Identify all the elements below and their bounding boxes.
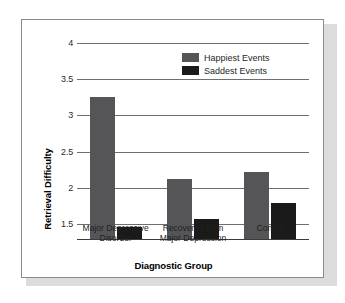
chart-legend: Happiest Events Saddest Events — [182, 51, 270, 77]
bar — [90, 97, 115, 239]
legend-swatch-saddest-icon — [182, 66, 199, 75]
x-axis-category-line: Major Depressive — [77, 223, 154, 233]
x-axis-category-label: Major DepressiveDisorder — [77, 223, 154, 243]
y-axis-tick-label: 2.5 — [61, 147, 73, 157]
x-axis-category-label: Control — [232, 223, 309, 233]
y-axis-tick-label: 1.5 — [61, 219, 73, 229]
legend-label-happiest: Happiest Events — [204, 53, 270, 63]
x-axis-category-line: Disorder — [77, 233, 154, 243]
legend-item-saddest: Saddest Events — [182, 64, 270, 77]
legend-item-happiest: Happiest Events — [182, 51, 270, 64]
legend-swatch-happiest-icon — [182, 53, 199, 62]
x-axis-category-line: Recovered from — [154, 223, 231, 233]
gridline-4 — [77, 43, 309, 44]
figure-frame: Retrieval Difficulty 43.532.521.5 Major … — [21, 19, 324, 278]
legend-label-saddest: Saddest Events — [204, 66, 267, 76]
x-axis-category-label: Recovered fromMajor Depression — [154, 223, 231, 243]
y-axis-title: Retrieval Difficulty — [42, 124, 53, 254]
y-axis-tick-label: 3.5 — [61, 74, 73, 84]
x-axis-category-line: Control — [232, 223, 309, 233]
gridline-3.5 — [77, 79, 309, 80]
bar — [271, 203, 296, 239]
y-axis-tick-label: 4 — [68, 38, 73, 48]
y-axis-tick-label: 2 — [68, 183, 73, 193]
y-axis-tick-label: 3 — [68, 110, 73, 120]
x-axis-title: Diagnostic Group — [22, 260, 325, 271]
x-axis-category-line: Major Depression — [154, 233, 231, 243]
